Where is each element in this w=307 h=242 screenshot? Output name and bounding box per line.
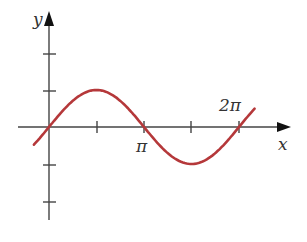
two-pi-tick-label: 2π	[218, 95, 242, 115]
pi-tick-label: π	[135, 136, 148, 156]
x-axis-label: x	[278, 134, 288, 154]
sine-graph: y x π 2π	[0, 0, 307, 242]
y-axis-arrow-icon	[44, 11, 54, 26]
x-axis-arrow-icon	[277, 122, 291, 132]
y-axis-label: y	[32, 9, 43, 29]
axes	[18, 22, 280, 220]
